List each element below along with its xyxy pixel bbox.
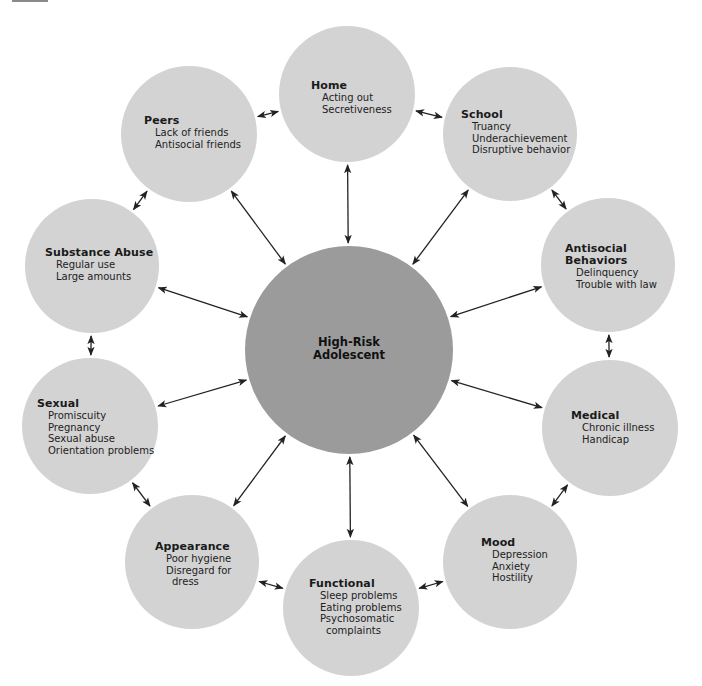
arrow-center-mood: [414, 435, 468, 506]
arrow-center-functional: [350, 457, 351, 537]
arrow-school-antisocial: [552, 190, 566, 209]
node-title: Appearance: [155, 541, 231, 553]
node-item: Handicap: [571, 434, 654, 446]
node-label-functional: FunctionalSleep problemsEating problemsP…: [309, 578, 402, 636]
arrow-mood-functional: [419, 582, 443, 589]
arrow-center-sexual: [158, 380, 246, 406]
node-label-sexual: SexualPromiscuityPregnancySexual abuseOr…: [37, 398, 154, 456]
node-label-peers: PeersLack of friendsAntisocial friends: [144, 115, 241, 150]
node-title: Home: [311, 80, 392, 92]
node-label-medical: MedicalChronic illnessHandicap: [571, 410, 654, 445]
node-title: Substance Abuse: [45, 247, 153, 259]
arrow-home-school: [416, 111, 442, 117]
center-title-line2: Adolescent: [279, 349, 419, 362]
node-item: Chronic illness: [571, 422, 654, 434]
node-title: Mood: [481, 537, 548, 549]
arrow-center-home: [348, 165, 349, 243]
node-item: dress: [155, 576, 231, 588]
arrow-center-school: [413, 190, 468, 264]
center-node-label: High-Risk Adolescent: [279, 336, 419, 362]
node-label-antisocial: AntisocialBehaviorsDelinquencyTrouble wi…: [565, 243, 657, 290]
node-item: Sleep problems: [309, 590, 402, 602]
node-item: Secretiveness: [311, 104, 392, 116]
arrow-center-peers: [231, 191, 285, 264]
node-item: Delinquency: [565, 267, 657, 279]
node-item: Underachievement: [461, 133, 570, 145]
node-title: Behaviors: [565, 255, 657, 267]
node-item: Truancy: [461, 121, 570, 133]
node-item: complaints: [309, 625, 402, 637]
arrow-center-substance: [159, 288, 248, 317]
node-title: Peers: [144, 115, 241, 127]
arrow-substance-peers: [134, 191, 148, 209]
node-item: Disregard for: [155, 565, 231, 577]
node-label-substance: Substance AbuseRegular useLarge amounts: [45, 247, 153, 282]
arrow-appearance-sexual: [133, 483, 150, 506]
arrow-peers-home: [258, 111, 278, 116]
node-title: School: [461, 109, 570, 121]
node-item: Lack of friends: [144, 127, 241, 139]
node-item: Pregnancy: [37, 422, 154, 434]
node-title: Functional: [309, 578, 402, 590]
node-item: Eating problems: [309, 602, 402, 614]
node-item: Trouble with law: [565, 279, 657, 291]
arrow-center-appearance: [234, 436, 286, 506]
arrow-functional-appearance: [259, 582, 283, 589]
node-item: Poor hygiene: [155, 553, 231, 565]
node-item: Promiscuity: [37, 410, 154, 422]
node-item: Regular use: [45, 259, 153, 271]
node-item: Sexual abuse: [37, 433, 154, 445]
node-item: Antisocial friends: [144, 139, 241, 151]
node-item: Acting out: [311, 92, 392, 104]
node-item: Orientation problems: [37, 445, 154, 457]
node-item: Anxiety: [481, 561, 548, 573]
node-label-home: HomeActing outSecretiveness: [311, 80, 392, 115]
node-item: Hostility: [481, 572, 548, 584]
node-item: Large amounts: [45, 271, 153, 283]
node-title: Sexual: [37, 398, 154, 410]
node-item: Disruptive behavior: [461, 144, 570, 156]
node-label-appearance: AppearancePoor hygieneDisregard fordress: [155, 541, 231, 588]
node-item: Depression: [481, 549, 548, 561]
node-label-school: SchoolTruancyUnderachievementDisruptive …: [461, 109, 570, 156]
arrow-medical-mood: [552, 485, 568, 506]
node-item: Psychosomatic: [309, 613, 402, 625]
node-title: Medical: [571, 410, 654, 422]
arrow-center-medical: [452, 381, 543, 408]
node-label-mood: MoodDepressionAnxietyHostility: [481, 537, 548, 584]
arrow-center-antisocial: [451, 287, 542, 317]
